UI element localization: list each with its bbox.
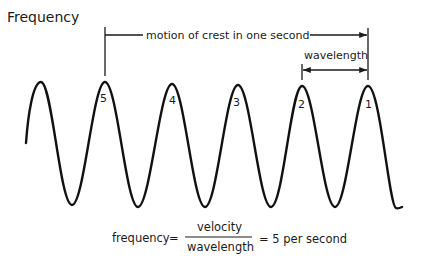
crest-label-2: 2 <box>298 98 305 111</box>
wavelength-arrow <box>302 64 367 80</box>
formula-numerator: velocity <box>197 220 242 234</box>
crest-label-1: 1 <box>365 98 372 111</box>
crest-label-3: 3 <box>233 96 240 109</box>
motion-of-crest-label: motion of crest in one second <box>146 29 309 42</box>
formula-lhs: frequency <box>112 231 170 245</box>
formula-result: = 5 per second <box>259 232 347 246</box>
formula-denominator: wavelength <box>187 240 254 254</box>
wave-curve <box>26 82 402 208</box>
diagram-title: Frequency <box>7 9 79 25</box>
wavelength-label: wavelength <box>304 49 368 62</box>
crest-label-5: 5 <box>100 92 107 105</box>
frequency-diagram: Frequency motion of crest in one second … <box>0 0 422 259</box>
formula-equals: = <box>169 231 179 245</box>
crest-label-4: 4 <box>169 94 176 107</box>
frequency-formula: frequency = velocity wavelength = 5 per … <box>112 220 347 254</box>
